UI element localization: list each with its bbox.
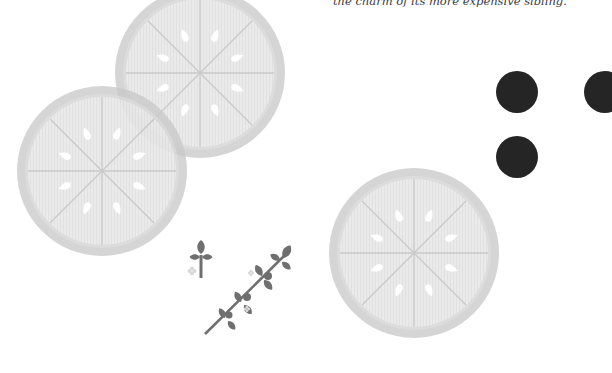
flower-icon <box>248 270 254 276</box>
dot-top-right <box>584 71 612 113</box>
dot-bottom-left <box>496 136 538 178</box>
long-sprig-icon <box>205 243 294 334</box>
citrus-slice-left <box>17 86 187 256</box>
illustration <box>0 0 612 373</box>
flower-icon <box>188 267 197 276</box>
dot-top-left <box>496 71 538 113</box>
citrus-slice-bottom <box>329 168 499 338</box>
